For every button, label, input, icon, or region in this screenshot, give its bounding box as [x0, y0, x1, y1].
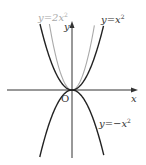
y-axis-arrow-icon [70, 21, 75, 28]
x-axis-arrow-icon [131, 88, 138, 93]
parabola-diagram: y=2x2 y=x2 y=−x2 y x O [0, 0, 146, 165]
label-y-equals-x-squared: y=x2 [101, 12, 125, 25]
origin-label: O [61, 94, 69, 104]
label-text: y=−x [99, 118, 127, 129]
label-text: y=x [101, 14, 121, 25]
label-exponent: 2 [64, 11, 68, 18]
label-text: y=2x [38, 12, 64, 23]
label-exponent: 2 [127, 117, 131, 124]
x-axis-label: x [131, 94, 137, 104]
y-axis-label: y [64, 22, 70, 32]
label-exponent: 2 [121, 13, 125, 20]
label-y-equals-neg-x-squared: y=−x2 [99, 116, 131, 129]
